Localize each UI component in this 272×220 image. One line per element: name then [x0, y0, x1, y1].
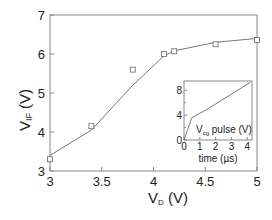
y-axis-label: VIF (V): [16, 89, 34, 131]
x-tick-label: 4: [150, 174, 157, 189]
inset-x-axis-label: time (µs): [198, 153, 237, 164]
x-tick-label: 4.5: [196, 174, 214, 189]
inset-y-tick-label: 8: [176, 85, 182, 96]
data-point-marker: [213, 42, 218, 47]
inset-x-tick-label: 4: [244, 141, 250, 152]
y-tick-label: 3: [38, 164, 45, 179]
inset-plot: 01234048: [176, 81, 252, 152]
y-tick-label: 6: [38, 47, 45, 62]
y-tick-label: 4: [38, 125, 45, 140]
inset-y-tick-label: 0: [176, 135, 182, 146]
data-point-marker: [161, 52, 166, 57]
data-point-marker: [255, 37, 260, 42]
chart: 33.544.5534567 01234048 VD (V) VIF (V) V…: [0, 0, 272, 220]
data-point-marker: [130, 67, 135, 72]
inset-x-tick-label: 2: [213, 141, 219, 152]
x-tick-label: 3.5: [93, 174, 111, 189]
x-tick-label: 5: [253, 174, 260, 189]
y-tick-label: 7: [38, 8, 45, 23]
data-point-marker: [48, 157, 53, 162]
inset-x-tick-label: 1: [197, 141, 203, 152]
y-tick-label: 5: [38, 86, 45, 101]
data-point-marker: [89, 124, 94, 129]
x-tick-label: 3: [46, 174, 53, 189]
inset-x-tick-label: 3: [229, 141, 235, 152]
inset-y-tick-label: 4: [176, 110, 182, 121]
inset-x-tick-label: 0: [181, 141, 187, 152]
data-point-marker: [172, 49, 177, 54]
x-axis-label: VD (V): [148, 189, 188, 207]
